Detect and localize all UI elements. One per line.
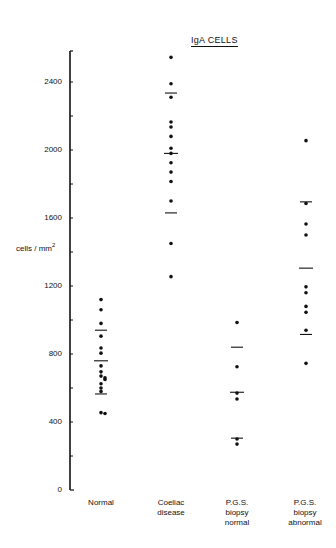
data-point (169, 147, 173, 151)
data-point (304, 285, 308, 289)
data-point (99, 351, 103, 355)
data-point (304, 311, 308, 315)
y-tick-label: 1200 (32, 281, 62, 290)
data-point (235, 321, 239, 325)
y-tick-label: 0 (32, 485, 62, 494)
category-label-line: biopsy (280, 508, 330, 518)
data-point (304, 233, 308, 237)
data-point (99, 386, 103, 390)
data-point (99, 346, 103, 350)
data-point (103, 378, 107, 382)
data-point (99, 298, 103, 302)
data-point (99, 308, 103, 312)
y-tick-label: 400 (32, 417, 62, 426)
y-tick-label: 1600 (32, 213, 62, 222)
data-point (304, 291, 308, 295)
data-point (235, 391, 239, 395)
data-point (99, 411, 103, 415)
data-point (169, 135, 173, 139)
y-tick-label: 800 (32, 349, 62, 358)
data-point (169, 152, 173, 156)
category-label: P.G.S.biopsyabnormal (280, 498, 330, 528)
category-label: P.G.S.biopsynormal (212, 498, 262, 528)
data-point (235, 397, 239, 401)
category-label-line: Normal (76, 498, 126, 508)
data-point (304, 362, 308, 366)
data-point (304, 139, 308, 143)
data-point (169, 275, 173, 279)
data-point (169, 242, 173, 246)
data-point (169, 56, 173, 60)
category-label: Normal (76, 498, 126, 508)
data-point (99, 370, 103, 374)
category-label-line: abnormal (280, 518, 330, 528)
category-label-line: disease (146, 508, 196, 518)
category-label-line: normal (212, 518, 262, 528)
data-point (99, 364, 103, 368)
y-tick-label: 2400 (32, 77, 62, 86)
category-label: Coeliacdisease (146, 498, 196, 518)
data-point (169, 96, 173, 100)
category-label-line: biopsy (212, 508, 262, 518)
y-tick-label: 2000 (32, 145, 62, 154)
data-point (304, 202, 308, 206)
data-point (169, 120, 173, 124)
data-point (99, 374, 103, 378)
data-point (304, 222, 308, 226)
data-point (304, 328, 308, 332)
data-point (99, 382, 103, 386)
data-point (304, 305, 308, 309)
data-point (235, 365, 239, 369)
data-point (99, 390, 103, 394)
data-point (103, 412, 107, 416)
category-label-line: P.G.S. (280, 498, 330, 508)
data-point (235, 442, 239, 446)
data-point (99, 334, 103, 338)
data-point (169, 82, 173, 86)
data-point (169, 170, 173, 174)
data-point (235, 437, 239, 441)
data-point (169, 180, 173, 184)
data-point (169, 199, 173, 203)
category-label-line: Coeliac (146, 498, 196, 508)
data-point (169, 161, 173, 165)
category-label-line: P.G.S. (212, 498, 262, 508)
data-point (169, 125, 173, 129)
data-point (99, 322, 103, 326)
